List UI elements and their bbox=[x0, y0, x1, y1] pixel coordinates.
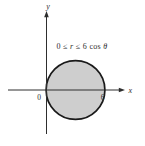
figure-canvas: 0 ≤ r ≤ 6 cos θ x y 0 6 bbox=[0, 0, 145, 146]
y-axis-arrowhead bbox=[44, 11, 49, 17]
inequality-prefix: 0 ≤ bbox=[56, 42, 70, 51]
x-intercept-tick-label: 6 bbox=[101, 93, 105, 102]
x-axis-arrowhead bbox=[119, 88, 125, 93]
polar-region-figure: 0 ≤ r ≤ 6 cos θ x y 0 6 bbox=[0, 0, 145, 146]
inequality-label: 0 ≤ r ≤ 6 cos θ bbox=[56, 42, 107, 51]
y-axis-label: y bbox=[45, 2, 50, 11]
inequality-theta-variable: θ bbox=[103, 42, 107, 51]
inequality-middle: ≤ 6 cos bbox=[74, 42, 104, 51]
x-axis-label: x bbox=[128, 86, 133, 95]
origin-tick-label: 0 bbox=[37, 93, 41, 102]
